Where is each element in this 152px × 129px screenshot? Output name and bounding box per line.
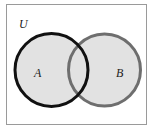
universe-label: U [19, 17, 29, 31]
set-b-label: B [116, 66, 124, 80]
venn-diagram: U A B [0, 0, 152, 129]
set-a-label: A [33, 66, 42, 80]
